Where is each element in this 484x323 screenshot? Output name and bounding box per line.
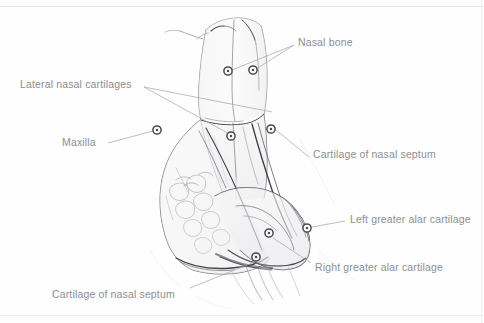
callout-label-nasal-bone: Nasal bone [298, 37, 353, 48]
callout-label-left-greater-alar-cartilage: Left greater alar cartilage [350, 214, 471, 225]
marker-dot-core-left-greater-alar-cartilage-0 [306, 227, 309, 230]
marker-dot-core-nasal-bone-0 [227, 70, 230, 73]
anatomy-diagram-figure: Nasal boneLateral nasal cartilagesMaxill… [0, 0, 484, 323]
marker-dot-core-cartilage-of-nasal-septum-upper-0 [270, 128, 273, 131]
callout-label-right-greater-alar-cartilage: Right greater alar cartilage [315, 262, 443, 273]
callout-label-maxilla: Maxilla [62, 137, 96, 148]
marker-dot-core-lateral-nasal-cartilages-0 [230, 135, 233, 138]
diagram-vector-layer [0, 0, 484, 323]
leader-line-left-greater-alar-cartilage-0 [312, 221, 345, 227]
marker-dot-core-nasal-bone-1 [252, 69, 255, 72]
leader-line-cartilage-of-nasal-septum-upper-0 [276, 130, 309, 157]
marker-dot-core-right-greater-alar-cartilage-0 [268, 232, 271, 235]
marker-dot-core-maxilla-0 [156, 129, 159, 132]
callout-label-cartilage-of-nasal-septum-upper: Cartilage of nasal septum [313, 149, 436, 160]
callout-label-lateral-nasal-cartilages: Lateral nasal cartilages [20, 79, 132, 90]
leader-line-maxilla-0 [108, 131, 153, 143]
callout-label-cartilage-of-nasal-septum-lower: Cartilage of nasal septum [52, 289, 175, 300]
marker-dot-core-cartilage-of-nasal-septum-lower-0 [255, 256, 258, 259]
